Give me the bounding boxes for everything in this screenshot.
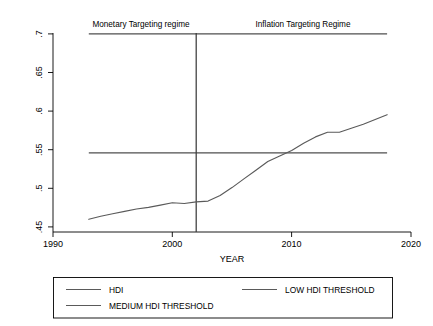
annotation-inflation-targeting-regime: Inflation Targeting Regime xyxy=(256,20,351,29)
y-tick-label-2: .55 xyxy=(34,143,44,156)
legend-label-hdi: HDI xyxy=(109,285,123,295)
x-tick-label-1: 2000 xyxy=(162,239,182,249)
chart-legend: HDI LOW HDI THRESHOLD MEDIUM HDI THRESHO… xyxy=(54,278,393,319)
x-tick-label-3: 2020 xyxy=(401,239,421,249)
chart-canvas: .45 .5 .55 .6 .65 .7 1990 2000 2010 2020… xyxy=(0,0,433,326)
x-tick-label-2: 2010 xyxy=(282,239,302,249)
plot-axes xyxy=(53,33,411,232)
hdi-regime-chart-figure: .45 .5 .55 .6 .65 .7 1990 2000 2010 2020… xyxy=(0,0,433,326)
x-tick-label-0: 1990 xyxy=(43,239,63,249)
x-axis-ticks xyxy=(53,232,411,237)
legend-label-medium-hdi-threshold: MEDIUM HDI THRESHOLD xyxy=(109,301,214,311)
annotation-monetary-targeting-regime: Monetary Targeting regime xyxy=(92,20,190,29)
y-tick-label-4: .65 xyxy=(34,66,44,79)
y-axis-tick-labels: .45 .5 .55 .6 .65 .7 xyxy=(34,30,44,233)
legend-label-low-hdi-threshold: LOW HDI THRESHOLD xyxy=(285,285,375,295)
y-tick-label-5: .7 xyxy=(34,30,44,38)
series-line-hdi xyxy=(89,115,387,220)
legend-border xyxy=(54,278,393,319)
y-axis-ticks xyxy=(48,34,53,227)
y-tick-label-0: .45 xyxy=(34,221,44,234)
y-tick-label-1: .5 xyxy=(34,185,44,193)
y-tick-label-3: .6 xyxy=(34,107,44,115)
x-axis-title: YEAR xyxy=(220,254,245,264)
x-axis-tick-labels: 1990 2000 2010 2020 xyxy=(43,239,421,249)
